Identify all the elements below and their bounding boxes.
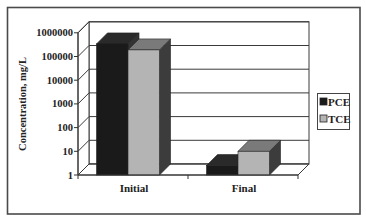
y-tick-label: 100 [57, 122, 73, 133]
y-tick-label: 1000 [52, 98, 73, 109]
x-category-label: Initial [120, 182, 149, 194]
y-axis-title: Concentration, mg/L [17, 57, 28, 151]
legend-label: TCE [328, 113, 351, 125]
legend: PCETCE [318, 94, 351, 130]
bar-tce-initial [128, 39, 171, 175]
y-tick-label: 100000 [42, 51, 74, 62]
legend-swatch [320, 115, 327, 122]
legend-swatch [320, 98, 327, 105]
y-tick-label: 10000 [47, 75, 73, 86]
y-tick-label: 1000000 [36, 27, 73, 38]
x-category-label: Final [232, 182, 256, 194]
bar-tce-final [238, 140, 281, 175]
y-tick-label: 10 [63, 146, 74, 157]
chart-canvas: 1101001000100001000001000000 InitialFina… [0, 0, 366, 222]
y-tick-label: 1 [68, 170, 73, 181]
legend-label: PCE [328, 96, 350, 108]
